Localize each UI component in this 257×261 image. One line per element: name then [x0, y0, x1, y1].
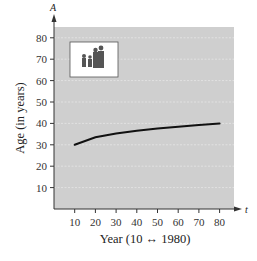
y-tick-label: 20	[36, 160, 48, 172]
photo-inset	[70, 42, 118, 77]
y-tick-label: 50	[36, 96, 48, 108]
line-chart: 1020304050607080 1020304050607080 A t Ag…	[0, 0, 257, 261]
x-tick-label: 80	[214, 216, 226, 228]
x-axis-title: Year (10 ↔ 1980)	[100, 232, 191, 246]
y-axis-title: Age (in years)	[13, 82, 27, 154]
x-tick-label: 70	[193, 216, 205, 228]
y-tick-label: 60	[36, 75, 48, 87]
y-axis-arrow-icon	[52, 14, 57, 22]
y-tick-label: 30	[36, 139, 48, 151]
x-tick-label: 40	[131, 216, 143, 228]
x-axis-arrow-icon	[234, 207, 242, 212]
x-ticks: 1020304050607080	[69, 209, 225, 228]
x-tick-label: 30	[111, 216, 123, 228]
x-tick-label: 60	[173, 216, 185, 228]
y-ticks: 1020304050607080	[36, 32, 54, 194]
y-tick-label: 10	[36, 182, 48, 194]
x-tick-label: 50	[152, 216, 164, 228]
y-tick-label: 40	[36, 117, 48, 129]
y-tick-label: 80	[36, 32, 48, 44]
y-tick-label: 70	[36, 53, 48, 65]
x-tick-label: 20	[90, 216, 102, 228]
x-tick-label: 10	[69, 216, 81, 228]
y-axis-variable: A	[49, 2, 57, 13]
x-axis-variable: t	[245, 204, 248, 215]
